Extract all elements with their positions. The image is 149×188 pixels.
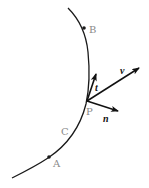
point-b-dot: [82, 26, 86, 30]
curve-c-label: C: [61, 126, 69, 137]
velocity-vector-label: v: [120, 65, 125, 76]
point-a-label: A: [52, 158, 61, 169]
curve-c: [12, 8, 89, 178]
point-p-label: P: [86, 106, 93, 117]
normal-vector-label: n: [103, 113, 109, 124]
point-b-label: B: [89, 24, 96, 35]
curve-diagram: B A C t v n P: [0, 0, 149, 188]
tangent-vector-label: t: [95, 82, 99, 93]
point-a-dot: [47, 155, 51, 159]
